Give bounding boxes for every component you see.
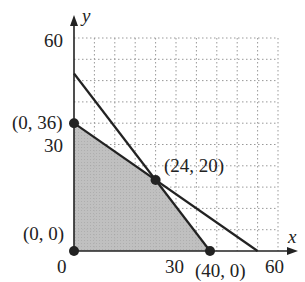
tick-x60: 60	[265, 256, 284, 277]
vertex-0-0	[69, 246, 79, 256]
y-axis-label: y	[80, 5, 91, 26]
vertex-0-36	[69, 118, 79, 128]
vertex-label-0-0: (0, 0)	[23, 223, 64, 245]
vertex-40-0	[205, 246, 215, 256]
vertex-label-0-36: (0, 36)	[12, 112, 63, 134]
vertex-label-40-0: (40, 0)	[195, 260, 246, 282]
vertex-24-20	[151, 175, 161, 185]
y-axis-arrow-icon	[70, 15, 78, 26]
tick-x30: 30	[165, 256, 184, 277]
tick-y60: 60	[44, 30, 63, 51]
feasible-region-chart: y x 60 30 0 30 60 (0, 36) (24, 20) (0, 0…	[0, 0, 305, 282]
tick-x0: 0	[57, 256, 67, 277]
feasible-region	[74, 123, 210, 251]
vertex-label-24-20: (24, 20)	[164, 155, 224, 177]
tick-y30: 30	[44, 135, 63, 156]
x-axis-arrow-icon	[287, 247, 298, 255]
x-axis-label: x	[287, 226, 297, 247]
